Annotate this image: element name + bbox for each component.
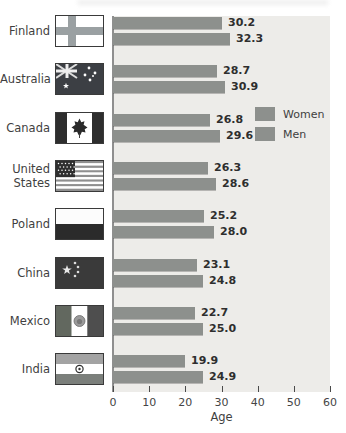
x-axis-title: Age — [113, 410, 330, 424]
men-value-china: 24.8 — [209, 274, 236, 288]
country-label-united-states: United States — [0, 162, 50, 191]
india-flag-icon — [55, 353, 104, 385]
men-value-australia: 30.9 — [231, 80, 258, 94]
men-bar-india — [113, 371, 203, 383]
men-bar-finland — [113, 33, 230, 45]
tick-mark-50 — [294, 386, 295, 392]
women-value-canada: 26.8 — [216, 113, 243, 127]
men-value-poland: 28.0 — [220, 225, 247, 239]
women-bar-finland — [113, 17, 222, 29]
australia-flag-icon — [55, 63, 104, 95]
men-bar-canada — [113, 130, 220, 142]
poland-flag-icon — [55, 208, 104, 240]
men-bar-china — [113, 275, 203, 287]
men-value-mexico: 25.0 — [209, 322, 236, 336]
women-bar-canada — [113, 114, 210, 126]
country-label-finland: Finland — [0, 24, 50, 38]
legend-row-men: Men — [255, 127, 324, 141]
country-label-canada: Canada — [0, 121, 50, 135]
women-value-india: 19.9 — [191, 354, 218, 368]
tick-mark-10 — [149, 386, 150, 392]
women-value-poland: 25.2 — [210, 209, 237, 223]
women-bar-united-states — [113, 162, 208, 174]
tick-mark-30 — [222, 386, 223, 392]
legend-label-men: Men — [283, 128, 306, 141]
women-bar-australia — [113, 65, 217, 77]
tick-label-60: 60 — [315, 396, 345, 409]
tick-label-0: 0 — [98, 396, 128, 409]
tick-mark-20 — [185, 386, 186, 392]
legend-swatch-women — [255, 107, 275, 121]
women-value-australia: 28.7 — [223, 64, 250, 78]
cropped-title-text-remnant — [78, 0, 328, 5]
women-bar-poland — [113, 210, 204, 222]
mexico-flag-icon — [55, 305, 104, 337]
country-label-china: China — [0, 266, 50, 280]
legend-row-women: Women — [255, 107, 324, 121]
women-bar-mexico — [113, 307, 195, 319]
legend: WomenMen — [255, 107, 324, 147]
tick-mark-0 — [113, 386, 114, 392]
tick-label-50: 50 — [279, 396, 309, 409]
china-flag-icon — [55, 257, 104, 289]
tick-label-40: 40 — [243, 396, 273, 409]
men-value-india: 24.9 — [209, 370, 236, 384]
tick-label-20: 20 — [170, 396, 200, 409]
marriage-age-bar-chart: Finland30.232.3Australia28.730.9Canada26… — [0, 0, 346, 433]
men-value-canada: 29.6 — [226, 129, 253, 143]
men-bar-united-states — [113, 178, 216, 190]
canada-flag-icon — [55, 112, 104, 144]
women-value-china: 23.1 — [203, 258, 230, 272]
men-bar-australia — [113, 81, 225, 93]
women-value-finland: 30.2 — [228, 16, 255, 30]
women-bar-india — [113, 355, 185, 367]
tick-label-30: 30 — [207, 396, 237, 409]
women-value-mexico: 22.7 — [201, 306, 228, 320]
country-label-india: India — [0, 362, 50, 376]
finland-flag-icon — [55, 15, 104, 47]
women-value-united-states: 26.3 — [214, 161, 241, 175]
country-label-australia: Australia — [0, 72, 50, 86]
tick-label-10: 10 — [134, 396, 164, 409]
women-bar-china — [113, 259, 197, 271]
men-value-united-states: 28.6 — [222, 177, 249, 191]
tick-mark-40 — [258, 386, 259, 392]
country-label-mexico: Mexico — [0, 314, 50, 328]
legend-swatch-men — [255, 127, 275, 141]
legend-label-women: Women — [283, 108, 324, 121]
united-states-flag-icon — [55, 160, 104, 192]
men-bar-poland — [113, 226, 214, 238]
men-bar-mexico — [113, 323, 203, 335]
men-value-finland: 32.3 — [236, 32, 263, 46]
tick-mark-60 — [330, 386, 331, 392]
country-label-poland: Poland — [0, 217, 50, 231]
